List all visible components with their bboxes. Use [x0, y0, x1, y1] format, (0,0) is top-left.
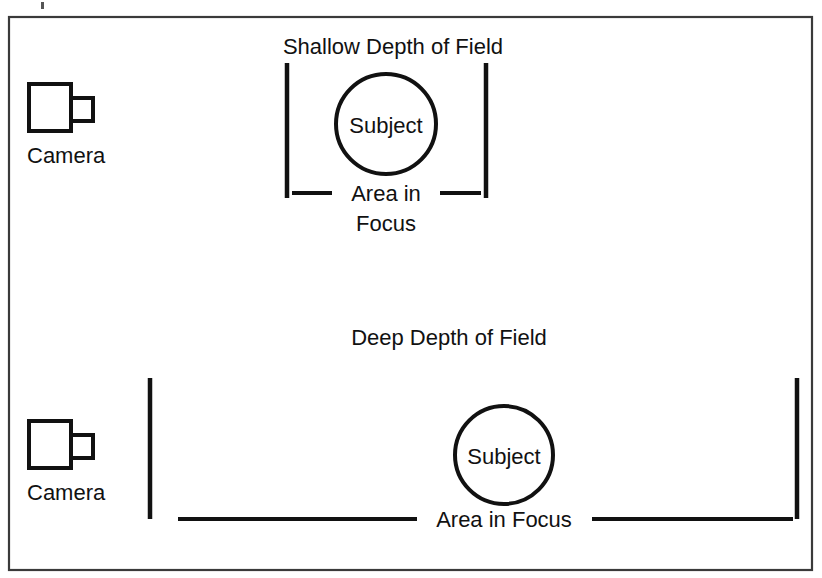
- camera-body-top: [29, 84, 71, 131]
- camera-body-bottom: [29, 421, 71, 468]
- shallow-heading: Shallow Depth of Field: [283, 34, 503, 59]
- depth-of-field-diagram: Shallow Depth of Field Camera Subject Ar…: [0, 0, 822, 578]
- stray-speck: [41, 2, 44, 9]
- camera-label-bottom: Camera: [27, 480, 106, 505]
- focus-label-top-line1: Area in: [351, 181, 421, 206]
- subject-label-top: Subject: [349, 113, 422, 138]
- focus-label-bottom: Area in Focus: [436, 507, 572, 532]
- focus-label-top-line2: Focus: [356, 211, 416, 236]
- diagram-canvas: Shallow Depth of Field Camera Subject Ar…: [0, 0, 822, 578]
- camera-label-top: Camera: [27, 143, 106, 168]
- camera-lens-bottom: [71, 435, 93, 458]
- deep-heading: Deep Depth of Field: [351, 325, 547, 350]
- subject-label-bottom: Subject: [467, 444, 540, 469]
- camera-lens-top: [71, 98, 93, 121]
